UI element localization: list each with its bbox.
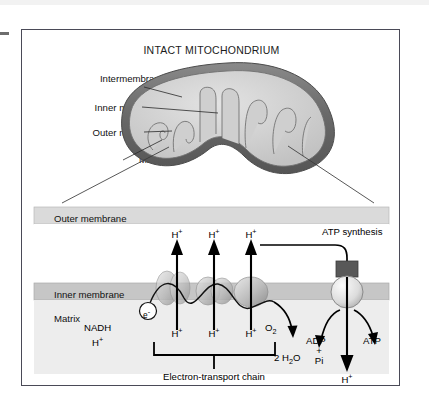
proton-out-1-charge: +: [178, 227, 182, 236]
electron-label-charge: -: [148, 307, 150, 316]
proton-in-2: H+: [200, 325, 228, 339]
proton-out-2-charge: +: [215, 227, 219, 236]
proton-in-3: H+: [237, 325, 265, 339]
oxygen-label: O2: [265, 322, 276, 337]
atp-synthesis-label: ATP synthesis: [322, 226, 382, 237]
electron-label: e-: [143, 306, 150, 321]
scan-artifact-top-strip: [0, 0, 429, 5]
proton-out-3: H+: [237, 226, 265, 240]
proton-out-2: H+: [200, 226, 228, 240]
atp-synthase-stalk: [336, 261, 358, 277]
figure-frame: INTACT MITOCHONDRIUM Intermembrane space…: [21, 29, 400, 386]
scan-artifact-edge-tick: [0, 32, 9, 35]
pi-label: Pi: [306, 355, 332, 366]
proton-in-3-charge: +: [252, 326, 256, 335]
atp-label: ATP: [363, 335, 381, 346]
proton-in-1: H+: [163, 325, 191, 339]
nadh-label: NADH: [84, 322, 111, 333]
water-suffix: O: [293, 352, 300, 363]
electron-transport-chain-label: Electron-transport chain: [134, 371, 294, 382]
proton-in-2-charge: +: [215, 326, 219, 335]
complex-i-lobe: [170, 272, 190, 304]
water-prefix: 2 H: [274, 352, 289, 363]
lower-panel-outer-membrane-label: Outer membrane: [54, 213, 127, 224]
nadh-proton-charge: +: [99, 335, 103, 344]
lower-panel-matrix-label: Matrix: [54, 313, 80, 324]
nadh-proton-label: H+: [92, 334, 103, 348]
proton-return-label: H+: [333, 371, 361, 385]
proton-out-1: H+: [163, 226, 191, 240]
water-label: 2 H2O: [274, 352, 300, 367]
proton-return-charge: +: [348, 372, 352, 381]
proton-in-1-charge: +: [178, 326, 182, 335]
nadh-proton-text: H: [92, 337, 99, 348]
proton-out-3-charge: +: [252, 227, 256, 236]
lower-panel-inner-membrane-label: Inner membrane: [54, 289, 124, 300]
oxygen-label-sub: 2: [272, 327, 276, 336]
